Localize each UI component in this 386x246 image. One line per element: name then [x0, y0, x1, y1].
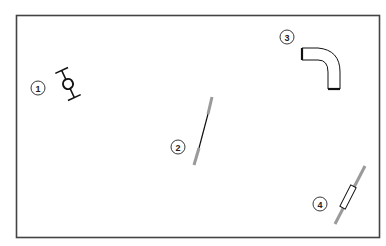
straight-rod-icon: [194, 97, 212, 165]
callout-1: 1: [31, 81, 45, 95]
elbow-pipe-icon: [302, 48, 340, 89]
callout-number: 3: [284, 33, 289, 43]
callout-number: 1: [35, 84, 40, 94]
callout-number: 2: [175, 143, 180, 153]
valve-fitting-icon: [55, 67, 80, 100]
callout-4: 4: [313, 197, 327, 211]
callout-2: 2: [171, 140, 185, 154]
sleeved-rod-icon: [335, 166, 365, 224]
callout-number: 4: [317, 200, 322, 210]
callout-3: 3: [280, 30, 294, 44]
parts-diagram: 1 2 3 4: [0, 0, 386, 246]
